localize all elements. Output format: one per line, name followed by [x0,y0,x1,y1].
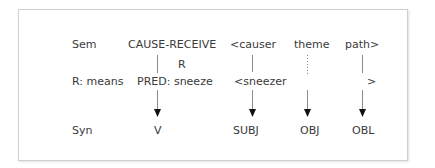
link-lines [0,0,435,168]
arrowhead-icon [154,109,161,117]
arrowhead-icon [304,109,311,117]
arrowhead-icon [359,109,366,117]
arrowhead-icon [249,109,256,117]
